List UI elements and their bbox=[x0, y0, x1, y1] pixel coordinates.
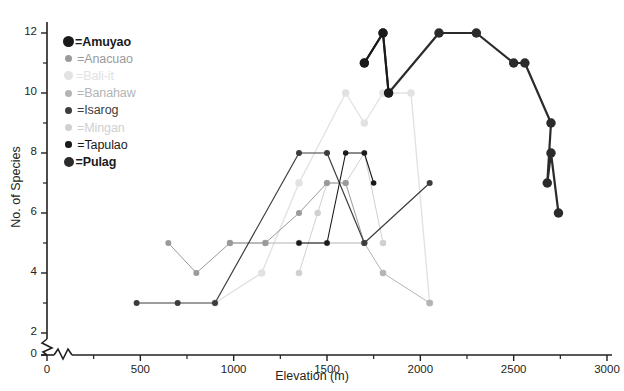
x-tick-label: 3000 bbox=[582, 363, 624, 375]
x-tick-label: 2500 bbox=[489, 363, 539, 375]
data-point bbox=[262, 240, 268, 246]
data-point bbox=[296, 150, 302, 156]
x-tick-label: 2000 bbox=[395, 363, 445, 375]
data-point bbox=[362, 150, 368, 156]
data-point bbox=[520, 58, 530, 68]
y-tick-label: 0 bbox=[1, 347, 37, 359]
data-point bbox=[343, 150, 349, 156]
legend-item-bali-it: =Bali-it bbox=[63, 67, 136, 84]
data-point bbox=[546, 118, 556, 128]
data-point bbox=[360, 59, 369, 68]
legend-marker-icon bbox=[64, 71, 73, 80]
data-point bbox=[371, 180, 377, 186]
data-point bbox=[165, 240, 171, 246]
data-point bbox=[212, 300, 218, 306]
x-tick-label: 0 bbox=[22, 363, 72, 375]
data-point bbox=[296, 240, 302, 246]
legend-item-label: =Amuyao bbox=[75, 35, 131, 49]
series-isarog bbox=[134, 150, 433, 306]
legend-item-label: =Pulag bbox=[76, 155, 117, 169]
data-point bbox=[472, 28, 482, 38]
data-point bbox=[546, 148, 556, 158]
y-tick-label: 2 bbox=[1, 325, 37, 337]
legend-marker-icon bbox=[65, 141, 72, 148]
data-point bbox=[175, 300, 181, 306]
data-point bbox=[554, 208, 564, 218]
y-tick-label: 12 bbox=[1, 25, 37, 37]
legend-item-tapulao: =Tapulao bbox=[63, 136, 136, 153]
legend-item-pulag: =Pulag bbox=[63, 153, 136, 170]
series-pulag bbox=[360, 28, 564, 218]
data-point bbox=[543, 178, 553, 188]
data-point bbox=[380, 240, 387, 247]
y-tick-label: 6 bbox=[1, 205, 37, 217]
x-tick-label: 1500 bbox=[302, 363, 352, 375]
species-elevation-chart: =Amuyao=Anacuao=Bali-it=Banahaw=Isarog=M… bbox=[0, 0, 624, 391]
x-tick-label: 500 bbox=[115, 363, 165, 375]
series-layer bbox=[134, 28, 564, 307]
data-point bbox=[193, 270, 199, 276]
data-point bbox=[227, 240, 233, 246]
y-tick-label: 10 bbox=[1, 85, 37, 97]
legend-item-amuyao: =Amuyao bbox=[63, 33, 136, 50]
data-point bbox=[384, 89, 393, 98]
legend-item-anacuao: =Anacuao bbox=[63, 50, 136, 67]
data-point bbox=[361, 119, 369, 127]
data-point bbox=[296, 210, 302, 216]
legend-marker-icon bbox=[64, 157, 74, 167]
legend-item-label: =Bali-it bbox=[76, 69, 114, 83]
data-point bbox=[258, 269, 266, 277]
data-point bbox=[314, 210, 321, 217]
legend-marker-icon bbox=[65, 55, 72, 62]
data-point bbox=[427, 180, 433, 186]
legend-item-label: =Mingan bbox=[77, 121, 125, 135]
x-tick-label: 1000 bbox=[209, 363, 259, 375]
data-point bbox=[296, 270, 303, 277]
series-banahaw bbox=[227, 240, 433, 307]
legend-marker-icon bbox=[65, 90, 72, 97]
data-point bbox=[379, 29, 388, 38]
data-point bbox=[380, 270, 387, 277]
legend-marker-icon bbox=[65, 124, 72, 131]
legend-marker-icon bbox=[65, 107, 72, 114]
chart-legend: =Amuyao=Anacuao=Bali-it=Banahaw=Isarog=M… bbox=[63, 33, 136, 171]
data-point bbox=[134, 300, 140, 306]
legend-item-label: =Banahaw bbox=[77, 86, 136, 100]
data-point bbox=[295, 179, 303, 187]
data-point bbox=[324, 240, 330, 246]
legend-item-label: =Tapulao bbox=[77, 138, 127, 152]
legend-item-label: =Anacuao bbox=[77, 52, 133, 66]
legend-item-mingan: =Mingan bbox=[63, 119, 136, 136]
series-amuyao bbox=[360, 29, 393, 98]
legend-item-isarog: =Isarog bbox=[63, 102, 136, 119]
legend-marker-icon bbox=[63, 36, 74, 47]
legend-item-label: =Isarog bbox=[77, 103, 118, 117]
data-point bbox=[407, 89, 415, 97]
data-point bbox=[509, 58, 519, 68]
y-tick-label: 8 bbox=[1, 145, 37, 157]
legend-item-banahaw: =Banahaw bbox=[63, 85, 136, 102]
data-point bbox=[434, 28, 444, 38]
data-point bbox=[324, 180, 330, 186]
data-point bbox=[342, 89, 350, 97]
data-point bbox=[324, 150, 330, 156]
data-point bbox=[426, 300, 433, 307]
data-point bbox=[361, 240, 367, 246]
data-point bbox=[343, 180, 349, 186]
y-tick-label: 4 bbox=[1, 265, 37, 277]
